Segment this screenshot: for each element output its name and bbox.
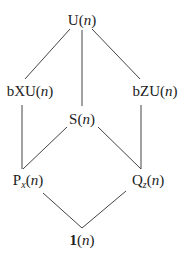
edge-s-px: [23, 127, 67, 169]
node-arg: n: [82, 232, 90, 248]
paren-close: ): [91, 12, 96, 28]
node-qz: Qz(n): [132, 173, 164, 190]
node-u: U(n): [68, 13, 96, 28]
edge-s-qz: [98, 127, 141, 169]
paren-close: ): [159, 172, 164, 188]
node-arg: n: [82, 111, 90, 127]
paren-close: ): [90, 232, 95, 248]
node-arg: n: [41, 83, 49, 99]
paren-close: ): [173, 83, 178, 99]
node-px: Px(n): [13, 173, 43, 190]
node-arg: n: [165, 83, 173, 99]
edge-u-bzu: [92, 29, 140, 79]
node-label-prefix: Q: [132, 172, 143, 188]
node-bxu: bXU(n): [7, 84, 54, 99]
node-bzu: bZU(n): [133, 84, 178, 99]
node-label-prefix: 1: [70, 232, 78, 248]
edges-layer: [0, 0, 182, 263]
node-label-prefix: bXU: [7, 83, 36, 99]
node-one: 1(n): [70, 233, 95, 248]
paren-close: ): [38, 172, 43, 188]
paren-close: ): [48, 83, 53, 99]
edge-u-bxu: [25, 29, 70, 79]
edge-px-one: [43, 193, 82, 228]
paren-close: ): [90, 111, 95, 127]
edge-qz-one: [82, 191, 126, 228]
node-s: S(n): [69, 112, 95, 127]
lattice-diagram: U(n) bXU(n) bZU(n) S(n) Px(n) Qz(n) 1(n): [0, 0, 182, 263]
node-label-prefix: bZU: [133, 83, 161, 99]
node-label-prefix: U: [68, 12, 79, 28]
